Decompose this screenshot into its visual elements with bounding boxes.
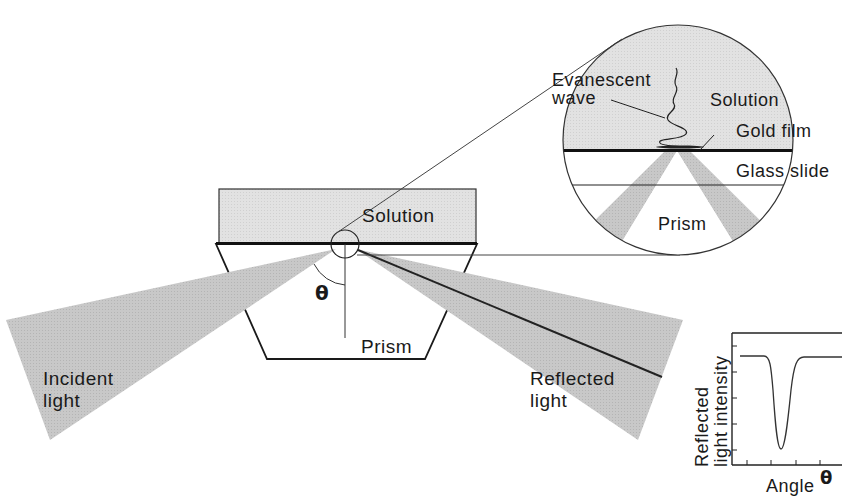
magnified-solution-label: Solution	[710, 90, 779, 110]
spr-diagram: Solution Prism θ Incident light Reflecte…	[0, 0, 850, 501]
evanescent-wave-base	[656, 146, 704, 149]
magnified-view: Evanescent wave Solution Gold film Glass…	[551, 20, 830, 261]
reflected-label-line2: light	[530, 390, 568, 411]
incident-label-line2: light	[43, 390, 81, 411]
magnified-prism-label: Prism	[658, 214, 707, 234]
incident-label-line1: Incident	[43, 368, 114, 389]
glass-slide-label: Glass slide	[736, 161, 830, 181]
chart-y-label-line1: Reflected	[692, 386, 712, 467]
reflected-label-line1: Reflected	[530, 368, 615, 389]
chart-y-label-line2: light intensity	[711, 355, 731, 467]
evanescent-label-line2: wave	[551, 88, 596, 108]
intensity-chart: Reflected light intensity Angle θ	[692, 333, 842, 496]
chart-x-ticks	[747, 460, 820, 465]
prism-label: Prism	[361, 336, 412, 357]
solution-label: Solution	[362, 205, 435, 226]
evanescent-label-line1: Evanescent	[552, 70, 651, 90]
chart-y-label: Reflected light intensity	[692, 355, 731, 467]
chart-x-label: Angle	[766, 476, 815, 496]
solution-layer	[219, 189, 476, 243]
gold-film-label: Gold film	[736, 121, 812, 141]
chart-x-theta: θ	[820, 467, 832, 488]
angle-theta-label: θ	[315, 281, 329, 305]
chart-y-ticks	[732, 346, 737, 450]
chart-intensity-curve	[740, 356, 842, 449]
